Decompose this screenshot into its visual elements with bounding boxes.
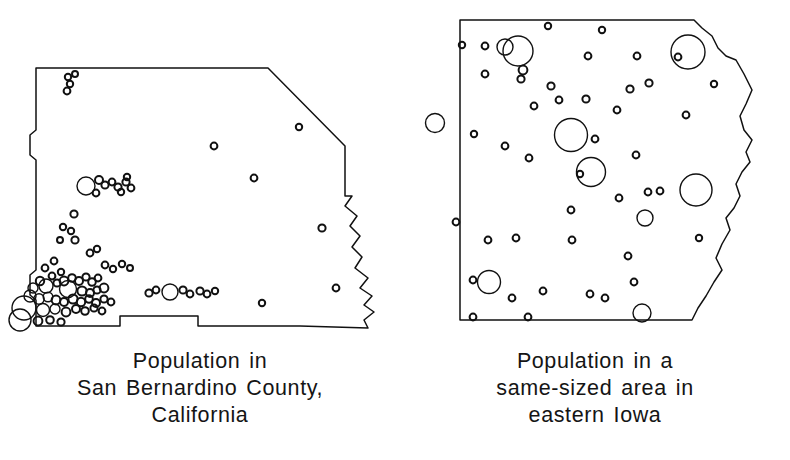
panel-san-bernardino: Population in San Bernardino County, Cal… bbox=[0, 0, 400, 460]
population-comparison-figure: Population in San Bernardino County, Cal… bbox=[0, 0, 790, 460]
population-circle bbox=[426, 114, 445, 133]
caption-eastern-iowa: Population in a same-sized area in easte… bbox=[400, 348, 790, 429]
caption-line-2: San Bernardino County, bbox=[0, 375, 400, 402]
map-eastern-iowa-area bbox=[400, 0, 790, 340]
map-san-bernardino-county bbox=[0, 0, 400, 340]
population-circle bbox=[453, 219, 460, 226]
caption-line-1: Population in bbox=[0, 348, 400, 375]
caption-san-bernardino: Population in San Bernardino County, Cal… bbox=[0, 348, 400, 429]
caption-line-2: same-sized area in bbox=[400, 375, 790, 402]
caption-line-1: Population in a bbox=[400, 348, 790, 375]
caption-line-3: California bbox=[0, 402, 400, 429]
san-bernardino-county-svg bbox=[0, 0, 400, 340]
caption-line-3: eastern Iowa bbox=[400, 402, 790, 429]
population-circle bbox=[12, 296, 36, 320]
eastern-iowa-area-svg bbox=[400, 0, 790, 340]
panel-eastern-iowa: Population in a same-sized area in easte… bbox=[400, 0, 790, 460]
